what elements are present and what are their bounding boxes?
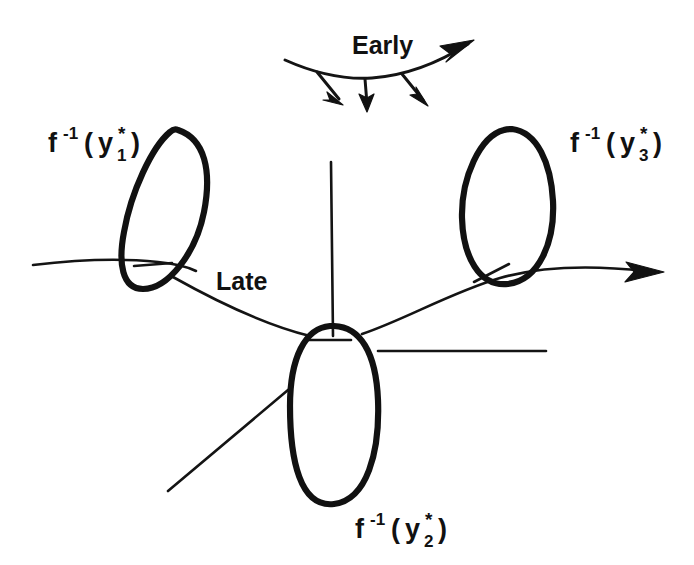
fiber-1-star: * — [118, 123, 126, 144]
early-label: Early — [352, 31, 413, 59]
fiber-1-close-paren: ) — [131, 128, 140, 158]
late-label: Late — [216, 267, 268, 295]
fiber-2-variable: y — [405, 514, 420, 544]
fiber-2-f: f — [355, 514, 365, 544]
canvas-background — [0, 0, 694, 565]
fiber-3-exponent: -1 — [585, 124, 600, 143]
fiber-2-close-paren: ) — [438, 514, 447, 544]
fiber-1-variable: y — [98, 128, 113, 158]
fiber-3-close-paren: ) — [653, 128, 662, 158]
fiber-3-f: f — [570, 128, 580, 158]
fiber-1-open-paren: ( — [84, 128, 93, 158]
fiber-2-open-paren: ( — [391, 514, 400, 544]
fiber-3-star: * — [640, 123, 648, 144]
fiber-3-index: 3 — [639, 146, 648, 165]
fiber-1-f: f — [48, 128, 58, 158]
fiber-3-variable: y — [620, 128, 635, 158]
fiber-2-index: 2 — [424, 532, 433, 551]
fiber-3-open-paren: ( — [606, 128, 615, 158]
fiber-1-index: 1 — [117, 146, 126, 165]
fiber-2-star: * — [425, 509, 433, 530]
fiber-1-exponent: -1 — [63, 124, 78, 143]
diagram-svg: Early Late f -1 ( y * 1 ) f -1 ( y * 2 ) — [0, 0, 694, 565]
figure-canvas: Early Late f -1 ( y * 1 ) f -1 ( y * 2 ) — [0, 0, 694, 565]
fiber-2-exponent: -1 — [370, 510, 385, 529]
